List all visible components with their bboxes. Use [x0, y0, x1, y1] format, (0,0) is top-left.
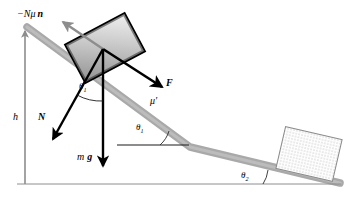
friction-label-magnitude: −Nμ: [17, 8, 35, 19]
height-label: h: [13, 112, 18, 122]
physics-diagram-figure: −Nμn h N θ1 mg F μ′ θ1 θ2: [0, 0, 351, 200]
theta-subscript: 1: [140, 128, 143, 134]
theta-2-arc: [263, 170, 268, 184]
theta-1-block-arc: [77, 95, 103, 101]
theta-subscript: 2: [245, 176, 248, 182]
weight-label: mg: [77, 152, 92, 162]
friction-label-unit-vector: n: [37, 8, 43, 19]
applied-force-label: F: [166, 78, 173, 88]
theta-1-block-label: θ1: [79, 82, 86, 93]
mu-prime-label: μ′: [150, 96, 157, 106]
sliding-block: [66, 14, 144, 82]
theta-2-label: θ2: [241, 171, 248, 182]
normal-force-label: N: [38, 112, 45, 122]
weight-mass-symbol: m: [77, 151, 84, 162]
theta-1-incline-label: θ1: [136, 123, 143, 134]
weight-gravity-symbol: g: [87, 151, 92, 162]
diagram-canvas: [0, 0, 351, 200]
theta-subscript: 1: [83, 87, 86, 93]
friction-vector-label: −Nμn: [17, 9, 43, 19]
